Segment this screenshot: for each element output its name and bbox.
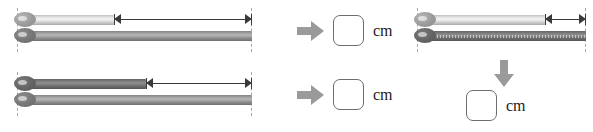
answer-field-3[interactable]: cm [466,90,526,121]
measure-line [548,19,583,20]
rod-top-head [14,76,36,91]
answer-field-1[interactable]: cm [333,15,393,46]
measure-line [149,83,249,84]
length-difference-problem-1 [0,0,290,62]
difference-arrow [114,14,252,25]
answer-field-2[interactable]: cm [333,79,393,110]
rod-bottom-head [414,28,436,43]
answer-box[interactable] [333,15,364,46]
highlight-glint [418,16,427,21]
highlight-glint [18,16,27,21]
rod-top [24,15,114,25]
rod-top [424,15,545,25]
rod-top-head [414,12,436,27]
arrow-right-icon [297,21,324,41]
highlight-glint [18,32,27,37]
unit-label: cm [373,23,393,39]
unit-label: cm [373,87,393,103]
rod-bottom [424,31,586,41]
answer-box[interactable] [466,90,497,121]
highlight-glint [418,32,427,37]
measure-tick-right [251,14,252,25]
arrow-down-icon [494,60,514,87]
measure-tick-right [585,14,586,25]
arrow-right-icon [297,85,324,105]
difference-arrow [545,14,586,25]
rod-top [24,79,146,89]
arrow-head-left-icon [146,78,153,88]
length-difference-problem-3 [412,0,593,60]
arrow-head-left-icon [545,14,552,24]
rod-pair [412,0,593,60]
answer-box[interactable] [333,79,364,110]
highlight-glint [18,80,27,85]
difference-arrow [146,78,252,89]
measure-line [117,19,249,20]
highlight-glint [18,96,27,101]
rod-bottom [24,31,252,41]
length-difference-problem-2 [0,64,290,126]
measure-tick-right [251,78,252,89]
rod-pair [0,0,290,62]
rod-bottom [24,95,252,105]
unit-label: cm [506,98,526,114]
rod-top-head [14,12,36,27]
rod-bottom-head [14,92,36,107]
rod-bottom-head [14,28,36,43]
arrow-head-left-icon [114,14,121,24]
rod-pair [0,64,290,126]
